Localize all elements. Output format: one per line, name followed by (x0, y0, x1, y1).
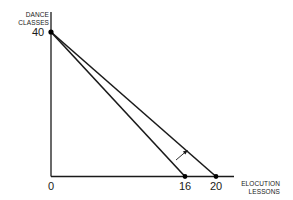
x-axis-label-line1: ELOCUTION (236, 180, 280, 188)
budget-line-original (51, 32, 185, 177)
x-tick-0: 0 (48, 180, 54, 192)
point-x-intercept-16 (183, 174, 188, 179)
y-tick-40: 40 (32, 26, 44, 38)
x-tick-20: 20 (210, 180, 222, 192)
y-axis-label: DANCE CLASSES (18, 11, 49, 27)
point-x-intercept-20 (214, 174, 219, 179)
shift-arrow-icon (176, 150, 188, 160)
y-axis-label-line1: DANCE (18, 11, 49, 19)
x-axis-label: ELOCUTION LESSONS (236, 180, 280, 196)
point-y-intercept (48, 29, 53, 34)
x-tick-16: 16 (179, 180, 191, 192)
budget-line-new (51, 32, 216, 177)
x-axis-label-line2: LESSONS (236, 188, 280, 196)
